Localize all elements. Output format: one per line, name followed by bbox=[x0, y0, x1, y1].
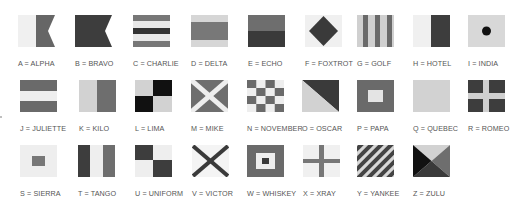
flag-label: K = KILO bbox=[79, 125, 139, 134]
flag-label: J = JULIETTE bbox=[20, 125, 80, 134]
stray-mark bbox=[0, 116, 2, 118]
flag-label: Q = QUEBEC bbox=[413, 125, 473, 134]
flag-foxtrot-icon bbox=[305, 15, 342, 47]
flag-label: I = INDIA bbox=[468, 60, 514, 69]
flag-label: G = GOLF bbox=[357, 60, 417, 69]
flag-india-icon bbox=[468, 15, 505, 47]
flag-mike-icon bbox=[191, 80, 228, 112]
flag-label: P = PAPA bbox=[357, 125, 417, 134]
flag-victor-icon bbox=[192, 145, 229, 177]
flag-label: M = MIKE bbox=[191, 125, 251, 134]
flag-oscar-icon bbox=[302, 80, 339, 112]
flag-label: S = SIERRA bbox=[20, 190, 80, 199]
flag-quebec-icon bbox=[413, 80, 450, 112]
flag-xray-icon bbox=[303, 145, 340, 177]
flag-uniform-icon bbox=[135, 145, 172, 177]
flag-label: T = TANGO bbox=[78, 190, 138, 199]
flag-romeo-icon bbox=[468, 80, 505, 112]
flag-label: D = DELTA bbox=[191, 60, 251, 69]
flag-sierra-icon bbox=[20, 145, 57, 177]
flag-label: Y = YANKEE bbox=[357, 190, 417, 199]
flag-label: N = NOVEMBER bbox=[247, 125, 307, 134]
flag-golf-icon bbox=[357, 15, 394, 47]
flag-november-icon bbox=[247, 80, 284, 112]
flag-label: A = ALPHA bbox=[18, 60, 78, 69]
flag-zulu-icon bbox=[413, 145, 450, 177]
flag-tango-icon bbox=[78, 145, 115, 177]
flag-label: E = ECHO bbox=[248, 60, 308, 69]
flag-label: X = XRAY bbox=[303, 190, 363, 199]
flag-lima-icon bbox=[135, 80, 172, 112]
flag-yankee-icon bbox=[357, 145, 394, 177]
flag-label: L = LIMA bbox=[135, 125, 195, 134]
flag-bravo-icon bbox=[75, 15, 112, 47]
flag-alpha-icon bbox=[18, 15, 55, 47]
flag-label: O = OSCAR bbox=[302, 125, 362, 134]
flag-label: H = HOTEL bbox=[413, 60, 473, 69]
flag-juliette-icon bbox=[20, 80, 57, 112]
flag-delta-icon bbox=[191, 15, 228, 47]
flag-whiskey-icon bbox=[247, 145, 284, 177]
flag-charlie-icon bbox=[133, 15, 170, 47]
flag-label: U = UNIFORM bbox=[135, 190, 195, 199]
signal-flags-chart: A = ALPHA B = BRAVO C = CHARLIE D = DELT… bbox=[0, 0, 514, 201]
flag-label: B = BRAVO bbox=[75, 60, 135, 69]
flag-papa-icon bbox=[357, 80, 394, 112]
flag-echo-icon bbox=[248, 15, 285, 47]
flag-hotel-icon bbox=[413, 15, 450, 47]
flag-label: V = VICTOR bbox=[192, 190, 252, 199]
flag-kilo-icon bbox=[79, 80, 116, 112]
flag-label: R = ROMEO bbox=[468, 125, 514, 134]
flag-label: C = CHARLIE bbox=[133, 60, 193, 69]
flag-label: W = WHISKEY bbox=[247, 190, 307, 199]
flag-label: F = FOXTROT bbox=[305, 60, 365, 69]
flag-label: Z = ZULU bbox=[413, 190, 473, 199]
